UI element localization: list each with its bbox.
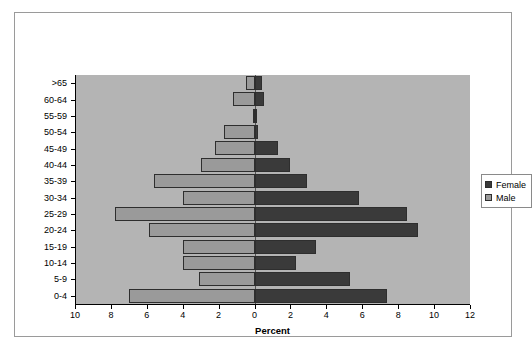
bar-male-5-9 [199, 272, 255, 286]
bar-row [75, 124, 470, 140]
y-tick-mark [71, 214, 75, 215]
bar-female-60-64 [255, 92, 264, 106]
bar-row [75, 255, 470, 271]
bar-female-50-54 [255, 125, 259, 139]
legend-label: Female [496, 180, 526, 190]
y-tick-label-45-49: 45-49 [29, 143, 67, 155]
y-tick-label-15-19: 15-19 [29, 241, 67, 253]
y-tick-mark [71, 83, 75, 84]
bar-row [75, 271, 470, 287]
y-tick-label-5-9: 5-9 [29, 273, 67, 285]
legend-swatch-icon [485, 194, 492, 201]
y-tick-mark [71, 198, 75, 199]
bar-row [75, 173, 470, 189]
x-tick-mark [219, 305, 220, 309]
y-tick-label-0-4: 0-4 [29, 290, 67, 302]
bar-female-55-59 [255, 109, 257, 123]
x-tick-label: 10 [63, 310, 87, 320]
bar-row [75, 222, 470, 238]
x-axis-line [75, 304, 470, 305]
x-tick-mark [398, 305, 399, 309]
y-tick-label-40-44: 40-44 [29, 159, 67, 171]
y-tick-mark [71, 296, 75, 297]
bar-male-0-4 [129, 289, 255, 303]
bar-row [75, 140, 470, 156]
bar-female-25-29 [255, 207, 408, 221]
x-tick-mark [290, 305, 291, 309]
y-tick-label-10-14: 10-14 [29, 257, 67, 269]
bar-female-40-44 [255, 158, 291, 172]
bar-female-10-14 [255, 256, 296, 270]
y-tick-label-35-39: 35-39 [29, 175, 67, 187]
bar-female->65 [255, 76, 262, 90]
bar-male-60-64 [233, 92, 255, 106]
bar-male-45-49 [215, 141, 255, 155]
bar-row [75, 288, 470, 304]
bar-row [75, 190, 470, 206]
y-axis-line [75, 75, 76, 304]
x-tick-mark [255, 305, 256, 309]
x-tick-mark [111, 305, 112, 309]
bar-male-40-44 [201, 158, 255, 172]
legend-item-male: Male [485, 191, 526, 204]
bar-male-20-24 [149, 223, 255, 237]
x-tick-label: 10 [422, 310, 446, 320]
y-tick-label-30-34: 30-34 [29, 192, 67, 204]
bar-row [75, 75, 470, 91]
y-tick-label-55-59: 55-59 [29, 110, 67, 122]
bar-male->65 [246, 76, 255, 90]
bar-row [75, 108, 470, 124]
y-tick-mark [71, 149, 75, 150]
x-tick-mark [434, 305, 435, 309]
x-tick-label: 12 [458, 310, 482, 320]
chart-legend: FemaleMale [481, 174, 532, 208]
x-tick-label: 2 [278, 310, 302, 320]
legend-item-female: Female [485, 178, 526, 191]
legend-label: Male [496, 193, 516, 203]
y-tick-mark [71, 279, 75, 280]
x-tick-mark [147, 305, 148, 309]
y-tick-label-60-64: 60-64 [29, 94, 67, 106]
x-tick-label: 8 [99, 310, 123, 320]
bar-row [75, 206, 470, 222]
y-tick-label->65: >65 [29, 77, 67, 89]
figure-frame: 108642024681012 0-45-910-1415-1920-2425-… [14, 12, 512, 337]
x-axis-title: Percent [75, 325, 470, 336]
y-tick-mark [71, 263, 75, 264]
legend-swatch-icon [485, 181, 492, 188]
x-tick-label: 4 [171, 310, 195, 320]
x-tick-label: 8 [386, 310, 410, 320]
x-tick-label: 4 [314, 310, 338, 320]
bar-male-50-54 [224, 125, 255, 139]
y-tick-label-50-54: 50-54 [29, 126, 67, 138]
bar-female-5-9 [255, 272, 350, 286]
bar-female-30-34 [255, 191, 359, 205]
x-tick-mark [470, 305, 471, 309]
y-tick-mark [71, 116, 75, 117]
bar-male-25-29 [115, 207, 255, 221]
bar-row [75, 157, 470, 173]
y-tick-mark [71, 132, 75, 133]
y-tick-mark [71, 247, 75, 248]
plot-area [75, 75, 470, 304]
bar-female-0-4 [255, 289, 388, 303]
bar-female-35-39 [255, 174, 307, 188]
bar-male-35-39 [154, 174, 255, 188]
x-tick-label: 0 [243, 310, 267, 320]
x-tick-mark [75, 305, 76, 309]
y-tick-label-20-24: 20-24 [29, 224, 67, 236]
y-tick-mark [71, 181, 75, 182]
x-tick-mark [326, 305, 327, 309]
bar-male-30-34 [183, 191, 255, 205]
bar-row [75, 91, 470, 107]
y-tick-mark [71, 230, 75, 231]
y-tick-mark [71, 100, 75, 101]
x-tick-mark [362, 305, 363, 309]
y-tick-label-25-29: 25-29 [29, 208, 67, 220]
x-tick-label: 6 [135, 310, 159, 320]
x-tick-label: 6 [350, 310, 374, 320]
x-tick-mark [183, 305, 184, 309]
bar-female-45-49 [255, 141, 278, 155]
bar-row [75, 239, 470, 255]
bar-female-15-19 [255, 240, 316, 254]
